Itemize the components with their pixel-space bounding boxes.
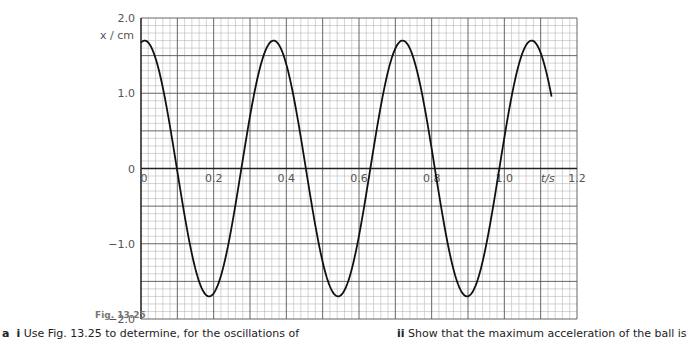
y-tick-label: 2.0: [118, 12, 136, 25]
question-ii-text: Show that the maximum acceleration of th…: [408, 327, 687, 340]
y-tick-label: −1.0: [108, 238, 135, 251]
figure-label: Fig. 13.25: [95, 310, 146, 320]
y-tick-label: 0: [128, 163, 135, 176]
x-tick-label: 0.2: [205, 172, 223, 185]
x-tick-label: 1.2: [568, 172, 586, 185]
question-ii-label: ii: [397, 327, 405, 340]
question-a-label: a: [2, 327, 9, 340]
question-i-label: i: [16, 327, 20, 340]
x-tick-label: 0.6: [350, 172, 368, 185]
y-axis-label: x / cm: [100, 29, 134, 42]
x-tick-label: 0.4: [278, 172, 296, 185]
x-tick-label: 0: [141, 172, 148, 185]
question-i-text: Use Fig. 13.25 to determine, for the osc…: [24, 327, 299, 340]
x-axis-label: t/s: [541, 172, 555, 185]
y-tick-labels: 2.01.00−1.0−2.0: [108, 12, 135, 326]
question-a-ii: ii Show that the maximum acceleration of…: [397, 327, 687, 340]
question-a-i: a i Use Fig. 13.25 to determine, for the…: [2, 327, 299, 340]
y-tick-label: 1.0: [118, 87, 136, 100]
